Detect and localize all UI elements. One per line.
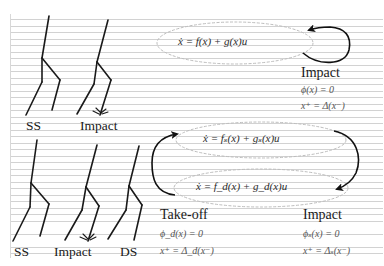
figure-label-ss-top: SS — [26, 119, 41, 133]
transition-title-impact-bottom: Impact — [303, 208, 342, 222]
takeoff-transition-arrow — [152, 134, 177, 195]
figure-label-impact-top: Impact — [80, 119, 117, 133]
mode-equation-single: ẋ = f(x) + g(x)u — [178, 36, 247, 47]
guard-condition: ϕ(x) = 0 — [301, 85, 334, 95]
figure-label-ss-bottom: SS — [14, 245, 29, 259]
transition-title-takeoff: Take-off — [160, 208, 208, 222]
stick-figure-ss-bottom — [13, 140, 49, 241]
guard-condition-takeoff: ϕ_d(x) = 0 — [160, 229, 203, 239]
reset-map: x⁺ = Δ(x⁻) — [301, 101, 345, 111]
reset-map-impact: x⁺ = Δₛ(x⁻) — [303, 246, 350, 256]
stick-figure-impact-top — [77, 20, 111, 115]
mode-equation-double-support: ẋ = f_d(x) + g_d(x)u — [196, 181, 287, 192]
figure-label-ds-bottom: DS — [120, 245, 137, 259]
stick-figure-ss-top — [26, 16, 60, 115]
stick-figure-ds-bottom — [108, 146, 142, 240]
guard-condition-impact: ϕₛ(x) = 0 — [303, 229, 339, 239]
transition-title-impact: Impact — [301, 66, 340, 80]
stick-figure-impact-bottom — [65, 145, 99, 241]
impact-self-loop-arrow — [303, 27, 350, 62]
mode-equation-single-support: ẋ = fₛ(x) + gₛ(x)u — [203, 133, 280, 144]
figure-label-impact-bottom: Impact — [54, 245, 91, 259]
reset-map-takeoff: x⁺ = Δ_d(x⁻) — [160, 246, 214, 256]
